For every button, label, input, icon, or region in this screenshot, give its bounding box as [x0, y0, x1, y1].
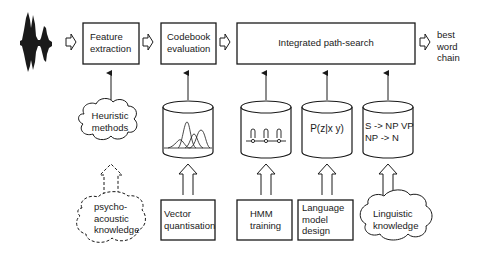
label-line: methods: [80, 122, 140, 134]
label-line: extraction: [90, 43, 131, 55]
vector-quantisation-label: Vector quantisation: [164, 208, 215, 231]
label-line: knowledge: [94, 224, 139, 236]
feature-extraction-label: Feature extraction: [90, 31, 131, 54]
label-line: quantisation: [164, 220, 215, 232]
label-line: HMM: [250, 208, 281, 220]
label-line: design: [302, 225, 344, 237]
up-arrow-icon: [111, 73, 388, 100]
label-line: Feature: [90, 31, 131, 43]
label-line: word: [437, 41, 460, 53]
grammar-rules-label: S -> NP VP NP -> N: [365, 120, 414, 143]
label-line: acoustic: [94, 213, 139, 225]
label-line: model: [302, 214, 344, 226]
codebook-evaluation-label: Codebook evaluation: [167, 31, 210, 54]
hollow-up-arrow-icon: [179, 164, 397, 195]
best-word-chain-label: best word chain: [437, 29, 460, 64]
label-line: Heuristic: [80, 110, 140, 122]
label-line: Linguistic: [373, 208, 418, 220]
label-line: Language: [302, 202, 344, 214]
label-line: Vector: [164, 208, 215, 220]
psychoacoustic-knowledge-label: psycho- acoustic knowledge: [94, 201, 139, 236]
label-line: training: [250, 220, 281, 232]
label-line: S -> NP VP: [365, 120, 414, 132]
language-model-formula: P(z|x y): [302, 123, 352, 135]
dashed-up-arrow-icon: [100, 164, 122, 195]
heuristic-methods-label: Heuristic methods: [80, 110, 140, 133]
label-line: evaluation: [167, 43, 210, 55]
label-line: psycho-: [94, 201, 139, 213]
path-search-label: Integrated path-search: [237, 37, 415, 49]
label-line: knowledge: [373, 220, 418, 232]
label-line: Codebook: [167, 31, 210, 43]
label-line: best: [437, 29, 460, 41]
speech-waveform-icon: [20, 12, 52, 72]
label-line: NP -> N: [365, 132, 414, 144]
label-line: chain: [437, 52, 460, 64]
language-model-design-label: Language model design: [302, 202, 344, 237]
linguistic-knowledge-label: Linguistic knowledge: [373, 208, 418, 231]
hmm-training-label: HMM training: [250, 208, 281, 231]
codebook-database-cylinder: [163, 101, 213, 158]
hmm-database-cylinder: [241, 101, 291, 158]
